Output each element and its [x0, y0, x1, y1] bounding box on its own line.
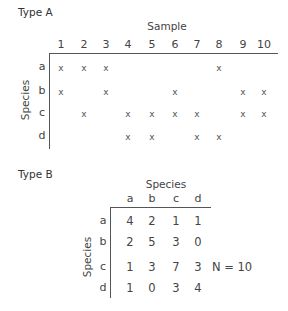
matrix-cell: 0 — [194, 236, 201, 248]
type-b-title: Type B — [18, 168, 53, 180]
presence-mark: x — [216, 131, 221, 143]
presence-mark: x — [194, 131, 199, 143]
type-a-row-header: b — [39, 85, 46, 97]
type-a-species-axis-label: Species — [19, 80, 31, 120]
presence-mark: x — [216, 62, 221, 74]
matrix-cell: 3 — [194, 261, 201, 273]
matrix-cell: 1 — [194, 215, 201, 227]
type-a-sample-axis-label: Sample — [147, 20, 186, 32]
type-b-column-axis-label: Species — [146, 178, 186, 190]
type-b-row-header: c — [100, 261, 106, 273]
matrix-cell: 1 — [172, 215, 179, 227]
type-b-row-header: b — [100, 236, 107, 248]
type-b-header-rule — [110, 207, 211, 208]
type-a-column-header: 7 — [194, 39, 201, 51]
type-b-column-header: a — [127, 193, 134, 205]
type-a-row-rule — [49, 53, 50, 149]
type-b-n-label: N = 10 — [212, 261, 252, 273]
matrix-cell: 1 — [126, 261, 133, 273]
type-a-column-header: 1 — [58, 39, 65, 51]
presence-mark: x — [261, 108, 266, 120]
type-a-row-header: a — [39, 61, 46, 73]
type-a-column-header: 2 — [81, 39, 88, 51]
presence-mark: x — [81, 108, 86, 120]
matrix-cell: 2 — [126, 236, 133, 248]
presence-mark: x — [81, 62, 86, 74]
matrix-cell: 5 — [148, 236, 155, 248]
type-a-column-header: 4 — [125, 39, 132, 51]
presence-mark: x — [194, 108, 199, 120]
matrix-cell: 4 — [126, 215, 133, 227]
type-b-column-header: b — [149, 193, 156, 205]
type-a-row-header: c — [39, 107, 45, 119]
type-b-column-header: d — [195, 193, 202, 205]
type-a-column-header: 8 — [216, 39, 223, 51]
presence-mark: x — [149, 108, 154, 120]
presence-mark: x — [172, 108, 177, 120]
presence-mark: x — [125, 108, 130, 120]
presence-mark: x — [125, 131, 130, 143]
matrix-cell: 1 — [126, 282, 133, 294]
presence-mark: x — [240, 86, 245, 98]
matrix-cell: 3 — [172, 282, 179, 294]
presence-mark: x — [261, 86, 266, 98]
type-a-title: Type A — [18, 6, 53, 18]
matrix-cell: 2 — [148, 215, 155, 227]
matrix-cell: 4 — [194, 282, 201, 294]
presence-mark: x — [149, 131, 154, 143]
type-a-column-header: 6 — [172, 39, 179, 51]
type-b-column-header: c — [173, 193, 179, 205]
matrix-cell: 7 — [172, 261, 179, 273]
type-b-row-rule — [110, 207, 111, 298]
type-a-header-rule — [49, 53, 278, 54]
matrix-cell: 3 — [148, 261, 155, 273]
presence-mark: x — [172, 86, 177, 98]
type-a-column-header: 10 — [257, 39, 271, 51]
type-b-row-axis-label: Species — [81, 237, 93, 277]
type-a-row-header: d — [39, 130, 46, 142]
type-b-row-header: d — [100, 282, 107, 294]
type-b-row-header: a — [100, 215, 107, 227]
presence-mark: x — [58, 62, 63, 74]
type-a-column-header: 3 — [103, 39, 110, 51]
type-a-column-header: 5 — [149, 39, 156, 51]
presence-mark: x — [240, 108, 245, 120]
presence-mark: x — [103, 62, 108, 74]
matrix-cell: 3 — [172, 236, 179, 248]
type-a-column-header: 9 — [240, 39, 247, 51]
matrix-cell: 0 — [148, 282, 155, 294]
presence-mark: x — [58, 86, 63, 98]
presence-mark: x — [103, 86, 108, 98]
